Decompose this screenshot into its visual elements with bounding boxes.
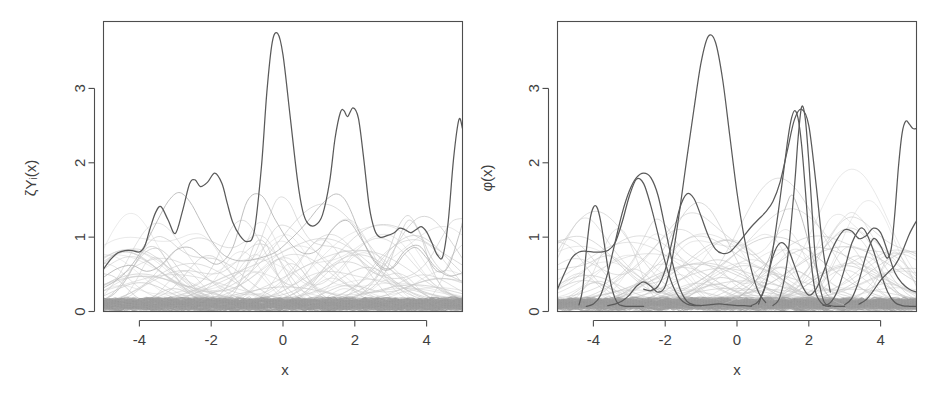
x-axis-right: -4-2024 <box>587 321 885 348</box>
x-tick-label: 4 <box>876 331 884 348</box>
y-tick-label: 3 <box>525 84 542 92</box>
y-tick-label: 1 <box>525 233 542 241</box>
x-axis-title-right: x <box>733 361 741 378</box>
y-tick-label: 0 <box>71 307 88 315</box>
dark-curves-left <box>104 33 463 270</box>
x-tick-label: 0 <box>733 331 741 348</box>
y-axis-title-left: ζYᵢ(x) <box>22 160 39 196</box>
series-dark-1 <box>558 178 752 306</box>
figure-container: -4-2024 0123 x ζYᵢ(x) -4-2024 0123 x φ(x… <box>0 0 944 400</box>
dark-curves-right <box>558 35 917 307</box>
y-tick-label: 3 <box>71 84 88 92</box>
x-tick-label: 4 <box>422 331 430 348</box>
x-tick-label: 2 <box>351 331 359 348</box>
y-axis-right: 0123 <box>525 84 549 315</box>
y-tick-label: 1 <box>71 233 88 241</box>
x-axis-left: -4-2024 <box>133 321 431 348</box>
x-tick-label: -4 <box>587 331 600 348</box>
x-tick-label: 0 <box>279 331 287 348</box>
x-axis-title-left: x <box>281 361 289 378</box>
plot-svg-right: -4-2024 0123 x φ(x) <box>472 0 944 400</box>
plot-svg-left: -4-2024 0123 x ζYᵢ(x) <box>0 0 472 400</box>
y-tick-label: 2 <box>71 159 88 167</box>
plot-panel-right: -4-2024 0123 x φ(x) <box>472 0 944 400</box>
series-envelope <box>104 33 463 270</box>
background-curves-left <box>104 197 463 312</box>
x-tick-label: -2 <box>659 331 672 348</box>
x-tick-label: 2 <box>805 331 813 348</box>
y-axis-left: 0123 <box>71 84 95 315</box>
plot-panel-left: -4-2024 0123 x ζYᵢ(x) <box>0 0 472 400</box>
x-tick-label: -4 <box>133 331 146 348</box>
y-axis-title-right: φ(x) <box>478 164 495 191</box>
y-tick-label: 2 <box>525 159 542 167</box>
x-tick-label: -2 <box>205 331 218 348</box>
y-tick-label: 0 <box>525 307 542 315</box>
